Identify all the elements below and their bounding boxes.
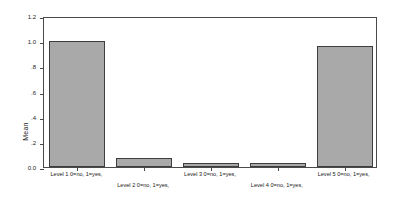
y-tick-mark <box>40 144 44 145</box>
x-tick-mark <box>144 167 145 171</box>
y-tick-label: 1.2 <box>28 14 36 20</box>
bar <box>116 158 172 167</box>
y-tick-mark <box>40 119 44 120</box>
y-axis-title: Mean <box>22 109 29 155</box>
x-tick-label: Level 4 0=no, 1=yes, <box>232 182 322 188</box>
y-tick-label: 1.0 <box>28 39 36 45</box>
bar-chart: Mean 0.0.2.4.6.81.01.2 Level 1 0=no, 1=y… <box>0 0 394 202</box>
y-tick-mark <box>40 94 44 95</box>
x-tick-label: Level 2 0=no, 1=yes, <box>98 182 188 188</box>
y-tick-label: .8 <box>31 64 36 70</box>
y-tick-mark <box>40 43 44 44</box>
bar <box>49 41 105 167</box>
y-tick-label: .6 <box>31 90 36 96</box>
bar <box>317 46 373 167</box>
plot-area: 0.0.2.4.6.81.01.2 <box>43 17 377 168</box>
x-tick-label: Level 1 0=no, 1=yes, <box>31 171 121 177</box>
y-tick-label: .2 <box>31 140 36 146</box>
y-tick-mark <box>40 68 44 69</box>
y-tick-label: .4 <box>31 115 36 121</box>
y-tick-mark <box>40 18 44 19</box>
x-tick-label: Level 5 0=no, 1=yes, <box>299 171 389 177</box>
y-tick-mark <box>40 169 44 170</box>
x-tick-label: Level 3 0=no, 1=yes, <box>165 171 255 177</box>
x-tick-mark <box>278 167 279 171</box>
